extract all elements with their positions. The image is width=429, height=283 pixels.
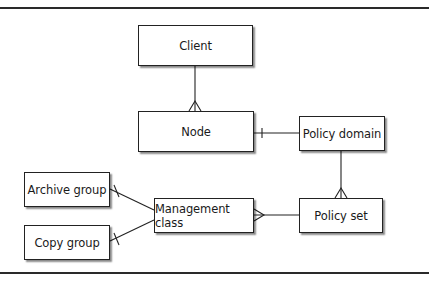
- entity-label: Policy domain: [303, 127, 382, 141]
- entity-policy-domain: Policy domain: [299, 116, 385, 151]
- entity-node: Node: [138, 111, 254, 152]
- entity-label: Management class: [155, 202, 253, 230]
- entity-label: Archive group: [28, 183, 107, 197]
- entity-management-class: Management class: [154, 198, 254, 233]
- entity-label: Node: [181, 125, 211, 139]
- entity-policy-set: Policy set: [299, 198, 383, 233]
- entity-copy-group: Copy group: [24, 225, 110, 260]
- entity-label: Client: [179, 39, 212, 53]
- entity-client: Client: [138, 25, 253, 66]
- entity-label: Policy set: [314, 209, 367, 223]
- entity-archive-group: Archive group: [24, 172, 110, 207]
- entity-label: Copy group: [34, 236, 99, 250]
